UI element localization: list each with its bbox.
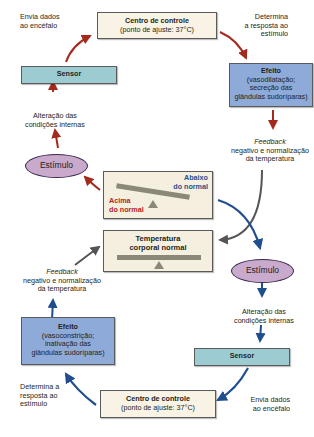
- label-line: da temperatura: [12, 285, 112, 294]
- label-line: da temperatura: [224, 155, 314, 164]
- scale-imbalanced: Acima do normal Abaixo do normal: [103, 171, 213, 219]
- fulcrum-icon: [148, 200, 158, 208]
- control-center-bottom: Centro de controle (ponto de ajuste: 37°…: [100, 390, 216, 418]
- above-normal-label: Acima do normal: [109, 197, 144, 214]
- determines-label-top: Determina a resposta ao estímulo: [236, 13, 288, 39]
- label-line: corporal normal: [104, 244, 212, 253]
- label-line: glândulas sudoríparas): [230, 93, 312, 102]
- scale-balanced: Temperatura corporal normal: [103, 230, 213, 272]
- stimulus-bottom: Estímulo: [231, 259, 294, 283]
- sends-data-label-top: Envia dados ao encéfalo: [20, 13, 60, 30]
- label-line: condições internas: [12, 121, 98, 130]
- sensor-top: Sensor: [21, 66, 117, 84]
- determines-label-bottom: Determina a resposta ao estímulo: [20, 383, 59, 409]
- below-normal-label: Abaixo do normal: [173, 174, 208, 191]
- effector-bottom: Efeito (vasoconstrição; inativação das g…: [21, 317, 115, 365]
- feedback-label-bottom: Feedback negativo e normalização da temp…: [12, 268, 112, 294]
- stimulus-top: Estímulo: [25, 154, 88, 178]
- sends-data-label-bottom: Envia dados ao encéfalo: [240, 396, 290, 413]
- control-center-detail: (ponto de ajuste: 37°C): [120, 25, 194, 34]
- label-line: ao encéfalo: [20, 22, 60, 31]
- label-line: estímulo: [236, 30, 288, 39]
- control-center-detail: (ponto de ajuste: 37°C): [121, 403, 195, 412]
- control-center-top: Centro de controle (ponto de ajuste: 37°…: [97, 12, 217, 39]
- label-line: ao encéfalo: [240, 405, 290, 414]
- fulcrum-icon: [154, 261, 164, 269]
- effector-top: Efeito (vasodilatação; secreção das glân…: [229, 63, 313, 107]
- level-beam: [117, 255, 201, 260]
- label-line: do normal: [173, 183, 208, 192]
- change-label-top: Alteração das condições internas: [12, 112, 98, 129]
- label-line: estímulo: [20, 400, 59, 409]
- label-line: do normal: [109, 206, 144, 215]
- normal-temp-label: Temperatura corporal normal: [104, 235, 212, 252]
- label-line: condições internas: [228, 317, 300, 326]
- feedback-label-top: Feedback negativo e normalização da temp…: [224, 138, 314, 164]
- change-label-bottom: Alteração das condições internas: [228, 308, 300, 325]
- sensor-bottom: Sensor: [194, 348, 290, 366]
- label-line: glândulas sudoríparas): [22, 349, 114, 358]
